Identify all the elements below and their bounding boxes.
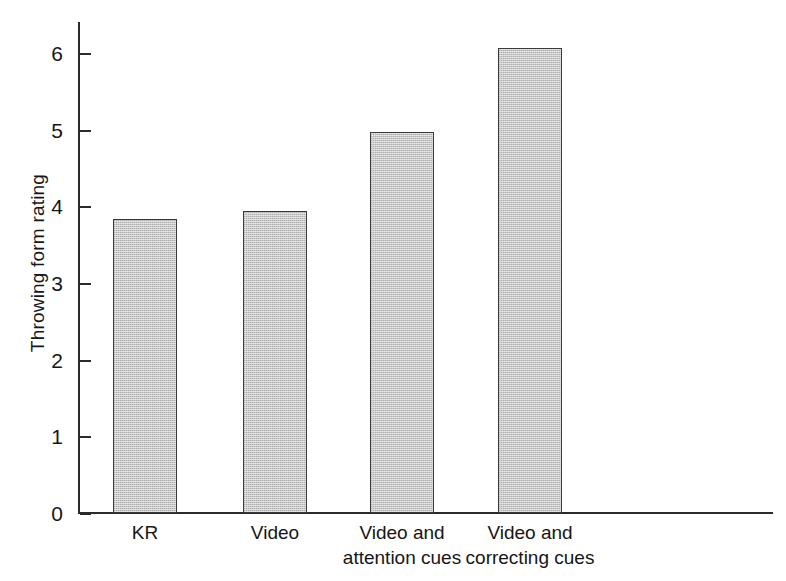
category-label: Video and correcting cues [430,520,630,570]
y-tick-4: 4 [80,206,91,208]
y-tick-6: 6 [80,53,91,55]
bar [243,211,307,513]
bar [370,132,434,513]
y-tick-2: 2 [80,360,91,362]
y-tick-5: 5 [80,130,91,132]
y-tick-0: 0 [80,513,91,515]
y-tick-3: 3 [80,283,91,285]
y-tick-label: 1 [51,425,63,449]
y-tick-1: 1 [80,436,91,438]
bar [113,219,177,513]
y-tick-label: 6 [51,42,63,66]
y-tick-label: 3 [51,272,63,296]
y-axis-line [78,22,80,514]
y-tick-label: 2 [51,349,63,373]
bar-chart-figure: Throwing form rating 0123456 KRVideoVide… [0,0,786,581]
y-tick-label: 4 [51,195,63,219]
bar [498,48,562,513]
y-tick-label: 5 [51,119,63,143]
y-axis-title: Throwing form rating [27,133,49,393]
